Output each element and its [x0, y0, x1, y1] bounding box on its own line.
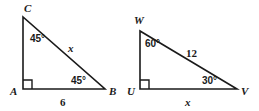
side-label-hypotenuse-x: x: [67, 42, 74, 54]
angle-label-c-45: 45°: [30, 33, 45, 44]
triangle-abc-outline: [23, 17, 105, 89]
right-angle-mark-u: [140, 80, 149, 89]
side-label-base-6: 6: [60, 96, 66, 108]
vertex-label-w: W: [134, 14, 145, 26]
geometry-figure-page: C A B 45° 45° x 6 W U V 60° 30° 12 x: [0, 0, 259, 111]
vertex-label-v: V: [241, 85, 250, 97]
triangle-abc: C A B 45° 45° x 6: [9, 2, 116, 108]
geometry-diagram-svg: C A B 45° 45° x 6 W U V 60° 30° 12 x: [0, 0, 259, 111]
vertex-label-a: A: [9, 85, 17, 97]
triangle-uvw: W U V 60° 30° 12 x: [127, 14, 250, 108]
vertex-label-b: B: [108, 85, 116, 97]
right-angle-mark-a: [23, 80, 32, 89]
vertex-label-c: C: [24, 2, 32, 14]
angle-label-w-60: 60°: [145, 38, 160, 49]
side-label-hypotenuse-12: 12: [186, 47, 198, 59]
angle-label-v-30: 30°: [202, 75, 217, 86]
angle-label-b-45: 45°: [71, 75, 86, 86]
side-label-base-x: x: [184, 96, 191, 108]
vertex-label-u: U: [127, 85, 136, 97]
